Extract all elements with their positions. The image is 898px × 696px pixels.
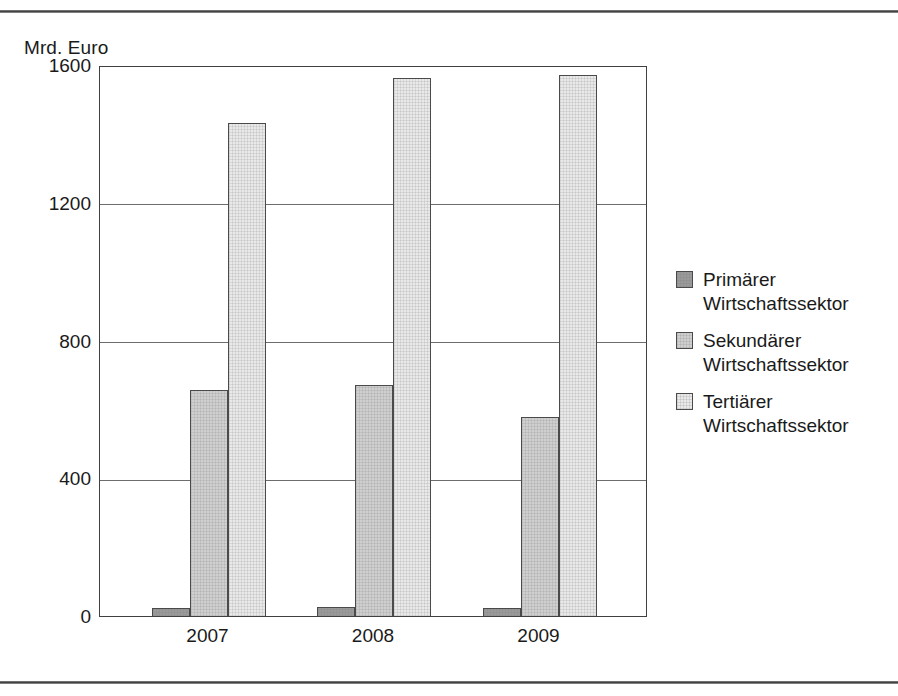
y-axis-tick-label: 800 (7, 331, 91, 353)
y-axis-tick-labels: 040080012001600 (0, 66, 91, 617)
bar-2007-series-3 (228, 123, 266, 616)
bar-2008-series-3 (393, 78, 431, 616)
y-axis-tick-label: 0 (7, 606, 91, 628)
y-axis-tick-label: 1200 (7, 193, 91, 215)
legend-label: Primärer Wirtschaftssektor (703, 268, 849, 316)
bar-2008-series-2 (355, 385, 393, 616)
legend-label: Sekundärer Wirtschaftssektor (703, 329, 849, 377)
bar-series-container (100, 67, 646, 616)
bar-2007-series-2 (190, 390, 228, 616)
legend-item-1: Primärer Wirtschaftssektor (676, 268, 891, 316)
y-axis-tick-label: 1600 (7, 55, 91, 77)
x-axis-tick-label: 2008 (352, 625, 394, 647)
x-axis-tick-label: 2007 (186, 625, 228, 647)
legend-swatch-icon (676, 332, 693, 349)
x-axis-tick-label: 2009 (517, 625, 559, 647)
bar-2009-series-3 (559, 75, 597, 616)
legend-label: Tertiärer Wirtschaftssektor (703, 390, 849, 438)
legend-swatch-icon (676, 271, 693, 288)
legend-swatch-icon (676, 393, 693, 410)
y-axis-tick-label: 400 (7, 468, 91, 490)
bar-chart-figure: Mrd. Euro 040080012001600 200720082009 P… (0, 13, 898, 681)
x-axis-tick-labels: 200720082009 (99, 625, 647, 659)
legend-item-2: Sekundärer Wirtschaftssektor (676, 329, 891, 377)
bar-2009-series-2 (521, 417, 559, 616)
bar-2007-series-1 (152, 608, 190, 616)
plot-area (99, 66, 647, 617)
bottom-divider-rule (0, 681, 898, 684)
legend-item-3: Tertiärer Wirtschaftssektor (676, 390, 891, 438)
chart-legend: Primärer WirtschaftssektorSekundärer Wir… (676, 268, 891, 451)
bar-2009-series-1 (483, 608, 521, 616)
bar-2008-series-1 (317, 607, 355, 616)
